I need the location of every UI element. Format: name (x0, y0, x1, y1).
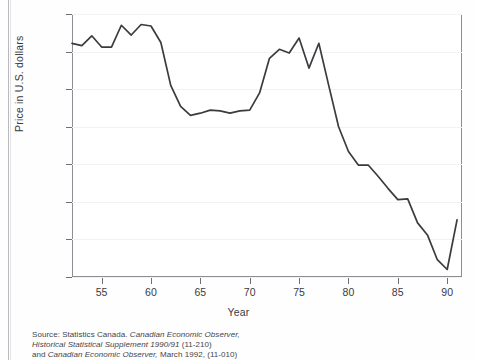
line-series-path (72, 25, 457, 270)
y-axis-title: Price in U.S. dollars (13, 0, 25, 132)
source-note: Source: Statistics Canada. Canadian Econ… (32, 330, 462, 359)
page-canvas: Price in U.S. dollars $1.051.00.95.90.85… (0, 0, 477, 360)
x-axis-tick-mark (151, 278, 152, 284)
source-line-1-prefix: Source: Statistics Canada. (32, 330, 128, 339)
source-line-3: and Canadian Economic Observer, March 19… (32, 350, 462, 360)
x-axis-tick-mark (398, 278, 399, 284)
source-line-1-italic: Canadian Economic Observer, (130, 330, 240, 339)
x-axis-tick-label: 60 (131, 286, 171, 298)
chart-plot-area (72, 14, 462, 277)
x-axis-tick-label: 80 (328, 286, 368, 298)
x-axis-tick-label: 70 (230, 286, 270, 298)
gridline (72, 277, 462, 278)
source-line-3-italic: Canadian Economic Observer, (48, 350, 158, 359)
source-line-1: Source: Statistics Canada. Canadian Econ… (32, 330, 462, 340)
x-axis-tick-mark (250, 278, 251, 284)
y-axis-title-wrapper: Price in U.S. dollars (26, 60, 40, 250)
x-axis-tick-label: 85 (378, 286, 418, 298)
x-axis-tick-label: 55 (82, 286, 122, 298)
x-axis-tick-label: 75 (279, 286, 319, 298)
x-axis-tick-label: 90 (427, 286, 467, 298)
x-axis-tick-mark (299, 278, 300, 284)
source-line-2-suffix: (11-210) (182, 340, 212, 349)
source-line-3-suffix: March 1992, (11-010) (160, 350, 237, 359)
line-series-svg (72, 14, 462, 277)
x-axis-tick-mark (102, 278, 103, 284)
x-axis-tick-label: 65 (180, 286, 220, 298)
source-line-2: Historical Statistical Supplement 1990/9… (32, 340, 462, 350)
x-axis-tick-mark (348, 278, 349, 284)
x-axis-title: Year (0, 306, 477, 318)
source-line-3-prefix: and (32, 350, 46, 359)
x-axis-tick-mark (447, 278, 448, 284)
source-line-2-italic: Historical Statistical Supplement 1990/9… (32, 340, 179, 349)
x-axis-tick-mark (200, 278, 201, 284)
